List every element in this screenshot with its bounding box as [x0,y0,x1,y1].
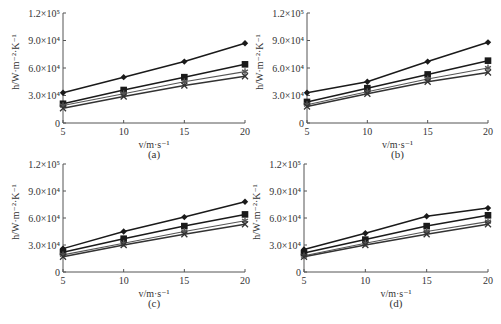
chart-panel-b: 03.0×10⁴6.0×10⁴9.0×10⁴1.2×10⁵5101520v/m·… [254,8,493,162]
diamond-marker [242,40,248,46]
x-tick-label: 15 [423,126,433,137]
figure: 03.0×10⁴6.0×10⁴9.0×10⁴1.2×10⁵5101520v/m·… [0,0,501,324]
square-marker [485,57,492,64]
x-tick-label: 5 [61,275,66,286]
diamond-marker [181,58,187,64]
diamond-marker [485,39,491,45]
diamond-marker [424,58,430,64]
diamond-marker [120,228,126,234]
y-tick-label: 9.0×10⁴ [272,35,304,46]
diamond-marker [242,199,248,205]
panel-label: (b) [391,148,404,161]
series-square [301,212,492,256]
diamond-marker [362,230,368,236]
y-tick-label: 0 [55,267,60,278]
y-axis-title: h/W·m⁻²·K⁻¹ [254,34,265,89]
y-axis-title: h/W·m⁻²·K⁻¹ [10,184,21,239]
y-tick-label: 6.0×10⁴ [28,213,60,224]
x-tick-label: 5 [305,126,310,137]
series-line [307,61,488,102]
y-tick-label: 3.0×10⁴ [269,240,301,251]
series-line [307,68,488,105]
x-tick-label: 5 [302,275,307,286]
y-tick-label: 3.0×10⁴ [28,90,60,101]
series-square [60,211,249,255]
series-x [60,73,248,111]
y-tick-label: 9.0×10⁴ [28,35,60,46]
y-tick-label: 0 [55,118,60,129]
y-tick-label: 9.0×10⁴ [28,186,60,197]
x-tick-label: 10 [362,126,372,137]
y-tick-label: 9.0×10⁴ [269,186,301,197]
square-marker [485,212,492,219]
series-line [63,221,245,255]
series-line [63,214,245,252]
series-square [304,57,492,105]
diamond-marker [120,74,126,80]
series-line [304,215,488,253]
y-axis-title: h/W·m⁻²·K⁻¹ [251,184,262,239]
diamond-marker [60,90,66,96]
x-tick-label: 20 [483,275,493,286]
series-line [63,72,245,106]
chart-panel-a: 03.0×10⁴6.0×10⁴9.0×10⁴1.2×10⁵5101520v/m·… [10,8,250,162]
x-tick-label: 15 [422,275,432,286]
y-tick-label: 1.2×10⁵ [28,8,60,19]
chart-panel-c: 03.0×10⁴6.0×10⁴9.0×10⁴1.2×10⁵5101520v/m·… [10,159,250,311]
y-tick-label: 3.0×10⁴ [272,90,304,101]
y-tick-label: 0 [299,118,304,129]
y-tick-label: 1.2×10⁵ [272,8,304,19]
panel-label: (a) [148,148,161,161]
x-tick-label: 20 [240,275,250,286]
series-line [63,43,245,93]
series-x [60,221,248,259]
diamond-marker [304,90,310,96]
series-line [63,64,245,103]
y-tick-label: 6.0×10⁴ [28,63,60,74]
x-tick-label: 5 [61,126,66,137]
diamond-marker [423,213,429,219]
diamond-marker [364,79,370,85]
panel-label: (c) [148,297,161,310]
x-tick-label: 10 [119,275,129,286]
square-marker [242,211,249,218]
series-x [304,70,491,110]
y-tick-label: 1.2×10⁵ [28,159,60,170]
x-tick-label: 15 [179,126,189,137]
series-x [301,221,491,259]
y-tick-label: 3.0×10⁴ [28,240,60,251]
panel-label: (d) [390,297,403,310]
x-tick-label: 10 [360,275,370,286]
y-tick-label: 6.0×10⁴ [272,63,304,74]
square-marker [242,61,249,68]
series-line [304,222,488,256]
chart-panel-d: 03.0×10⁴6.0×10⁴9.0×10⁴1.2×10⁵5101520v/m·… [251,159,493,311]
diamond-marker [181,214,187,220]
y-axis-title: h/W·m⁻²·K⁻¹ [10,34,21,89]
series-line [307,73,488,107]
x-tick-label: 15 [179,275,189,286]
series-line [63,76,245,108]
y-tick-label: 1.2×10⁵ [269,159,301,170]
diamond-marker [485,205,491,211]
x-tick-label: 20 [240,126,250,137]
y-tick-label: 6.0×10⁴ [269,213,301,224]
x-tick-label: 10 [119,126,129,137]
x-tick-label: 20 [483,126,493,137]
series-line [304,224,488,256]
y-tick-label: 0 [296,267,301,278]
